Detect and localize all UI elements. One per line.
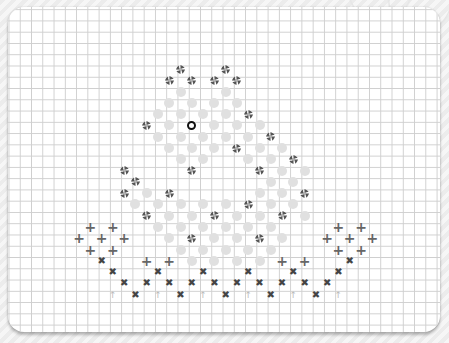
empty-dot-cell[interactable] — [265, 153, 277, 165]
empty-dot-cell[interactable] — [265, 221, 277, 233]
plus-icon[interactable]: + — [355, 221, 367, 233]
up-arrow-icon[interactable]: ↑ — [107, 289, 119, 301]
empty-dot-cell[interactable] — [220, 86, 232, 98]
pinwheel-icon[interactable] — [129, 176, 141, 188]
pinwheel-icon[interactable] — [118, 187, 130, 199]
up-arrow-icon[interactable]: ↑ — [197, 289, 209, 301]
empty-dot-cell[interactable] — [152, 221, 164, 233]
empty-dot-cell[interactable] — [231, 255, 243, 267]
empty-dot-cell[interactable] — [231, 232, 243, 244]
selected-ring-cursor[interactable] — [186, 119, 198, 131]
cross-icon[interactable]: ✖ — [163, 277, 175, 289]
empty-dot-cell[interactable] — [175, 108, 187, 120]
empty-dot-cell[interactable] — [220, 198, 232, 210]
up-arrow-icon[interactable]: ↑ — [287, 289, 299, 301]
empty-dot-cell[interactable] — [186, 97, 198, 109]
empty-dot-cell[interactable] — [254, 187, 266, 199]
cross-icon[interactable]: ✖ — [242, 266, 254, 278]
pinwheel-icon[interactable] — [208, 74, 220, 86]
pinwheel-icon[interactable] — [242, 198, 254, 210]
up-arrow-icon[interactable]: ↑ — [152, 289, 164, 301]
empty-dot-cell[interactable] — [197, 108, 209, 120]
empty-dot-cell[interactable] — [175, 244, 187, 256]
cross-icon[interactable]: ✖ — [231, 277, 243, 289]
cross-icon[interactable]: ✖ — [310, 289, 322, 301]
cross-icon[interactable]: ✖ — [175, 289, 187, 301]
empty-dot-cell[interactable] — [175, 131, 187, 143]
plus-icon[interactable]: + — [332, 221, 344, 233]
pinwheel-icon[interactable] — [254, 232, 266, 244]
pinwheel-icon[interactable] — [265, 131, 277, 143]
plus-icon[interactable]: + — [299, 255, 311, 267]
empty-dot-cell[interactable] — [186, 210, 198, 222]
empty-dot-cell[interactable] — [254, 210, 266, 222]
empty-dot-cell[interactable] — [186, 255, 198, 267]
plus-icon[interactable]: + — [366, 232, 378, 244]
pinwheel-icon[interactable] — [254, 165, 266, 177]
empty-dot-cell[interactable] — [231, 97, 243, 109]
cross-icon[interactable]: ✖ — [141, 277, 153, 289]
empty-dot-cell[interactable] — [299, 210, 311, 222]
plus-icon[interactable]: + — [84, 221, 96, 233]
empty-dot-cell[interactable] — [163, 210, 175, 222]
empty-dot-cell[interactable] — [265, 198, 277, 210]
cross-icon[interactable]: ✖ — [265, 289, 277, 301]
pinwheel-icon[interactable] — [141, 210, 153, 222]
cross-icon[interactable]: ✖ — [299, 277, 311, 289]
empty-dot-cell[interactable] — [276, 165, 288, 177]
empty-dot-cell[interactable] — [265, 244, 277, 256]
cross-icon[interactable]: ✖ — [321, 277, 333, 289]
pinwheel-icon[interactable] — [231, 142, 243, 154]
empty-dot-cell[interactable] — [163, 119, 175, 131]
empty-dot-cell[interactable] — [163, 97, 175, 109]
plus-icon[interactable]: + — [321, 232, 333, 244]
empty-dot-cell[interactable] — [220, 131, 232, 143]
empty-dot-cell[interactable] — [220, 108, 232, 120]
empty-dot-cell[interactable] — [141, 187, 153, 199]
cross-icon[interactable]: ✖ — [152, 266, 164, 278]
empty-dot-cell[interactable] — [231, 119, 243, 131]
pinwheel-icon[interactable] — [141, 119, 153, 131]
cross-icon[interactable]: ✖ — [129, 289, 141, 301]
plus-icon[interactable]: + — [276, 255, 288, 267]
pinwheel-icon[interactable] — [186, 74, 198, 86]
empty-dot-cell[interactable] — [276, 232, 288, 244]
empty-dot-cell[interactable] — [208, 119, 220, 131]
empty-dot-cell[interactable] — [197, 221, 209, 233]
cross-icon[interactable]: ✖ — [197, 266, 209, 278]
plus-icon[interactable]: + — [118, 232, 130, 244]
pinwheel-icon[interactable] — [231, 74, 243, 86]
plus-icon[interactable]: + — [344, 232, 356, 244]
empty-dot-cell[interactable] — [175, 198, 187, 210]
pinwheel-icon[interactable] — [208, 210, 220, 222]
empty-dot-cell[interactable] — [129, 198, 141, 210]
empty-dot-cell[interactable] — [175, 86, 187, 98]
empty-dot-cell[interactable] — [242, 131, 254, 143]
pinwheel-icon[interactable] — [276, 210, 288, 222]
pinwheel-icon[interactable] — [175, 63, 187, 75]
cross-icon[interactable]: ✖ — [186, 277, 198, 289]
plus-icon[interactable]: + — [107, 244, 119, 256]
empty-dot-cell[interactable] — [197, 198, 209, 210]
cross-icon[interactable]: ✖ — [208, 277, 220, 289]
cross-icon[interactable]: ✖ — [118, 277, 130, 289]
up-arrow-icon[interactable]: ↑ — [332, 289, 344, 301]
plus-icon[interactable]: + — [141, 255, 153, 267]
pinwheel-icon[interactable] — [118, 165, 130, 177]
empty-dot-cell[interactable] — [208, 232, 220, 244]
cross-icon[interactable]: ✖ — [287, 266, 299, 278]
empty-dot-cell[interactable] — [287, 198, 299, 210]
empty-dot-cell[interactable] — [254, 255, 266, 267]
empty-dot-cell[interactable] — [299, 165, 311, 177]
empty-dot-cell[interactable] — [276, 142, 288, 154]
empty-dot-cell[interactable] — [175, 153, 187, 165]
empty-dot-cell[interactable] — [231, 210, 243, 222]
plus-icon[interactable]: + — [107, 221, 119, 233]
pinwheel-icon[interactable] — [242, 108, 254, 120]
empty-dot-cell[interactable] — [254, 119, 266, 131]
cross-icon[interactable]: ✖ — [107, 266, 119, 278]
empty-dot-cell[interactable] — [276, 187, 288, 199]
empty-dot-cell[interactable] — [242, 244, 254, 256]
empty-dot-cell[interactable] — [265, 176, 277, 188]
empty-dot-cell[interactable] — [152, 198, 164, 210]
